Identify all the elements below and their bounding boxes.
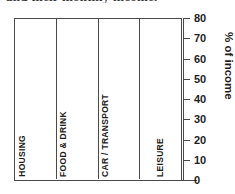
y-tick-label: 10 (194, 154, 206, 165)
y-tick (183, 140, 190, 141)
y-tick (183, 59, 190, 60)
bar-groups: HOUSINGFOOD & DRINKCAR / TRANSPORTLEISUR… (14, 18, 182, 180)
y-tick (183, 180, 190, 181)
bar-group: LEISURE (140, 19, 181, 179)
y-tick (183, 38, 190, 39)
bar-chart: HOUSINGFOOD & DRINKCAR / TRANSPORTLEISUR… (14, 18, 182, 180)
y-axis-title: % of income (223, 32, 235, 160)
category-label-text: CAR / TRANSPORT (101, 94, 110, 177)
y-tick-label: 60 (194, 53, 206, 64)
y-axis: 01020304050607080 % of income (183, 18, 235, 181)
y-tick-label: 0 (194, 175, 200, 186)
bar-group: CAR / TRANSPORT (99, 19, 141, 179)
category-label: HOUSING (15, 135, 29, 177)
y-tick (183, 79, 190, 80)
category-label: FOOD & DRINK (57, 111, 71, 177)
y-tick-label: 50 (194, 73, 206, 84)
bar-group: FOOD & DRINK (57, 19, 99, 179)
category-label-text: FOOD & DRINK (59, 111, 68, 177)
bar-group: HOUSING (15, 19, 57, 179)
x-axis-baseline (14, 180, 197, 181)
category-label: LEISURE (154, 138, 168, 177)
y-tick (183, 18, 190, 19)
category-label-text: HOUSING (18, 135, 27, 177)
y-tick (183, 99, 190, 100)
y-tick (183, 119, 190, 120)
y-tick-label: 80 (194, 13, 206, 24)
category-label: CAR / TRANSPORT (99, 94, 113, 177)
y-tick-label: 40 (194, 94, 206, 105)
cropped-caption: and their monthly income. (6, 0, 196, 3)
y-tick-label: 70 (194, 33, 206, 44)
category-label-text: LEISURE (156, 138, 165, 177)
y-tick-label: 30 (194, 114, 206, 125)
y-tick (183, 160, 190, 161)
y-tick-label: 20 (194, 134, 206, 145)
